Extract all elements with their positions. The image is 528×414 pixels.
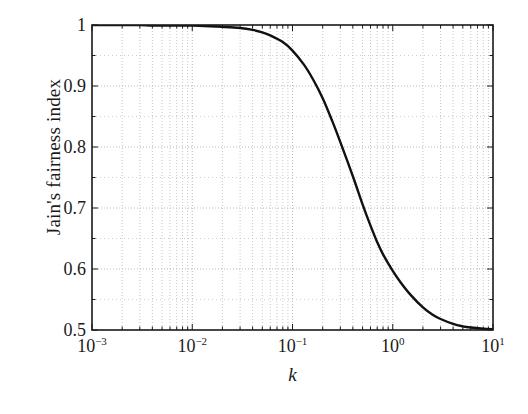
x-tick-label: 101 (448, 336, 528, 357)
x-tick-label: 10−2 (147, 336, 237, 357)
y-axis-title: Jain's fairness index (43, 7, 65, 307)
x-tick-mantissa: 10 (381, 336, 399, 356)
x-tick-exponent: 0 (399, 335, 405, 347)
x-tick-exponent: −2 (195, 335, 207, 347)
x-tick-exponent: −1 (296, 335, 308, 347)
x-tick-mantissa: 10 (77, 336, 95, 356)
x-tick-mantissa: 10 (481, 336, 499, 356)
x-tick-mantissa: 10 (278, 336, 296, 356)
x-tick-exponent: −3 (95, 335, 107, 347)
x-axis-title: k (92, 364, 493, 386)
x-tick-exponent: 1 (499, 335, 505, 347)
chart-figure: 10.90.80.70.60.5 10−310−210−1100101 Jain… (0, 0, 528, 414)
x-tick-mantissa: 10 (177, 336, 195, 356)
x-tick-label: 10−3 (47, 336, 137, 357)
x-tick-label: 10−1 (248, 336, 338, 357)
x-tick-label: 100 (348, 336, 438, 357)
